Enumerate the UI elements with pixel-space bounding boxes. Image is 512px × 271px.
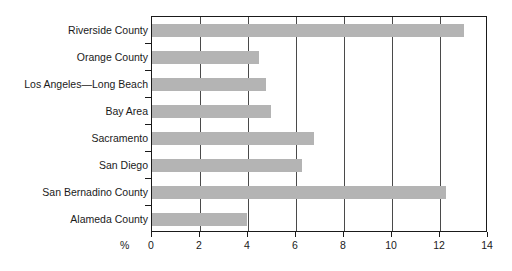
y-axis-label: San Diego xyxy=(0,159,148,171)
bar xyxy=(152,132,314,145)
x-axis-tick xyxy=(343,232,344,237)
bar xyxy=(152,159,302,172)
x-axis-tick-label: 2 xyxy=(184,239,214,251)
x-axis-tick xyxy=(391,232,392,237)
y-axis-label: Alameda County xyxy=(0,213,148,225)
x-axis-unit-label: % xyxy=(120,239,129,251)
bar-row xyxy=(152,186,446,199)
y-axis-label: San Bernadino County xyxy=(0,186,148,198)
plot-area xyxy=(151,16,487,232)
bar-row xyxy=(152,132,314,145)
x-axis-tick-label: 12 xyxy=(424,239,454,251)
bar-row xyxy=(152,213,247,226)
bar-row xyxy=(152,105,271,118)
y-axis-label: Orange County xyxy=(0,51,148,63)
x-axis-tick-label: 8 xyxy=(328,239,358,251)
x-axis-tick-label: 14 xyxy=(472,239,502,251)
bar-row xyxy=(152,51,259,64)
bar xyxy=(152,213,247,226)
y-axis-label: Los Angeles—Long Beach xyxy=(0,78,148,90)
bar-row xyxy=(152,159,302,172)
bar-row xyxy=(152,78,266,91)
y-axis-label: Bay Area xyxy=(0,105,148,117)
bar xyxy=(152,78,266,91)
x-axis-tick xyxy=(439,232,440,237)
x-axis-tick xyxy=(151,232,152,237)
y-axis-label: Riverside County xyxy=(0,24,148,36)
bar-row xyxy=(152,24,464,37)
x-axis-tick xyxy=(295,232,296,237)
x-axis-tick-label: 6 xyxy=(280,239,310,251)
x-axis-tick xyxy=(487,232,488,237)
bar xyxy=(152,105,271,118)
bar xyxy=(152,51,259,64)
y-axis-label: Sacramento xyxy=(0,132,148,144)
bar xyxy=(152,24,464,37)
bar-chart: Riverside CountyOrange CountyLos Angeles… xyxy=(0,0,512,271)
x-axis-tick xyxy=(199,232,200,237)
x-axis-tick-label: 4 xyxy=(232,239,262,251)
y-axis-labels: Riverside CountyOrange CountyLos Angeles… xyxy=(0,16,148,232)
x-axis-tick xyxy=(247,232,248,237)
x-axis-tick-label: 0 xyxy=(136,239,166,251)
bar xyxy=(152,186,446,199)
x-axis-tick-label: 10 xyxy=(376,239,406,251)
